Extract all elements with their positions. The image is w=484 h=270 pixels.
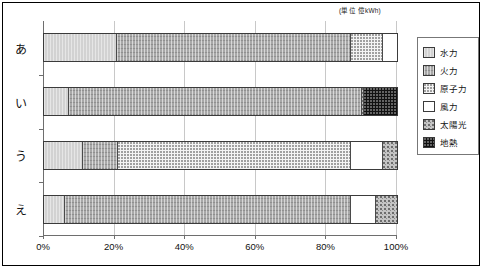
bar-segment-wind[interactable]: [351, 196, 376, 223]
bar-segment-wind[interactable]: [383, 34, 397, 61]
bar-segment-wind[interactable]: [351, 142, 383, 169]
x-tick-label: 20%: [104, 241, 123, 252]
plot-area: [43, 21, 396, 236]
bar-segment-solar[interactable]: [376, 196, 397, 223]
y-tick-mark: [39, 129, 43, 130]
bar-え[interactable]: [43, 195, 398, 224]
x-tick-mark: [184, 235, 185, 239]
bar-segment-nuclear[interactable]: [118, 142, 351, 169]
legend-label-thermal: 火力: [440, 64, 458, 76]
legend-swatch-wind: [423, 101, 435, 112]
bar-segment-hydro[interactable]: [44, 196, 65, 223]
bar-う[interactable]: [43, 141, 398, 170]
legend-label-hydro: 水力: [440, 46, 458, 58]
x-tick-mark: [114, 235, 115, 239]
legend-item-geothermal[interactable]: 地熱: [423, 133, 478, 151]
bar-segment-thermal[interactable]: [69, 88, 362, 115]
legend: 水力火力原子力風力太陽光地熱: [417, 37, 479, 155]
bar-segment-hydro[interactable]: [44, 142, 83, 169]
y-tick-mark: [39, 236, 43, 237]
x-tick-label: 60%: [245, 241, 264, 252]
x-tick-mark: [325, 235, 326, 239]
legend-swatch-thermal: [423, 65, 435, 76]
unit-caption: (単位 億kWh): [339, 5, 381, 15]
legend-label-geothermal: 地熱: [440, 136, 458, 148]
x-tick-label: 40%: [175, 241, 194, 252]
legend-item-nuclear[interactable]: 原子力: [423, 79, 478, 97]
legend-item-hydro[interactable]: 水力: [423, 43, 478, 61]
legend-swatch-solar: [423, 119, 435, 130]
legend-label-wind: 風力: [440, 100, 458, 112]
bar-あ[interactable]: [43, 33, 398, 62]
legend-item-solar[interactable]: 太陽光: [423, 115, 478, 133]
legend-swatch-geothermal: [423, 137, 435, 148]
category-label-い: い: [15, 93, 27, 110]
x-tick-mark: [255, 235, 256, 239]
category-label-う: う: [15, 147, 27, 164]
bar-い[interactable]: [43, 87, 398, 116]
legend-item-wind[interactable]: 風力: [423, 97, 478, 115]
category-label-え: え: [15, 201, 27, 218]
x-tick-mark: [43, 235, 44, 239]
bar-segment-thermal[interactable]: [83, 142, 118, 169]
x-axis-line: [43, 235, 396, 236]
x-tick-label: 80%: [316, 241, 335, 252]
legend-item-thermal[interactable]: 火力: [423, 61, 478, 79]
y-tick-mark: [39, 182, 43, 183]
legend-swatch-hydro: [423, 47, 435, 58]
bar-segment-geothermal[interactable]: [364, 88, 397, 115]
bar-segment-thermal[interactable]: [65, 196, 351, 223]
bar-segment-solar[interactable]: [383, 142, 397, 169]
bar-segment-nuclear[interactable]: [351, 34, 383, 61]
bar-segment-thermal[interactable]: [117, 34, 351, 61]
bar-segment-hydro[interactable]: [44, 88, 69, 115]
x-tick-label: 100%: [384, 241, 408, 252]
legend-swatch-nuclear: [423, 83, 435, 94]
x-tick-label: 0%: [36, 241, 50, 252]
legend-label-nuclear: 原子力: [440, 82, 467, 94]
category-label-あ: あ: [15, 39, 27, 56]
y-tick-mark: [39, 75, 43, 76]
legend-label-solar: 太陽光: [440, 118, 467, 130]
x-tick-mark: [396, 235, 397, 239]
chart-frame: (単位 億kWh) 0%20%40%60%80%100% あいうえ 水力火力原子…: [2, 2, 480, 266]
bar-segment-hydro[interactable]: [44, 34, 117, 61]
